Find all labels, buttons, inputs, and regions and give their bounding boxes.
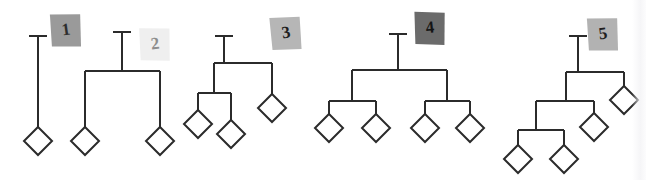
badge-4[interactable]: 4	[412, 9, 448, 48]
badge-5[interactable]: 5	[584, 14, 621, 54]
badge-2[interactable]: 2	[137, 24, 174, 64]
badge-1[interactable]: 1	[47, 10, 84, 50]
badge-3[interactable]: 3	[267, 13, 305, 54]
figure-canvas: 12345	[0, 0, 646, 180]
tree-diagram-svg: 12345	[0, 0, 646, 180]
canvas-background	[0, 0, 646, 180]
